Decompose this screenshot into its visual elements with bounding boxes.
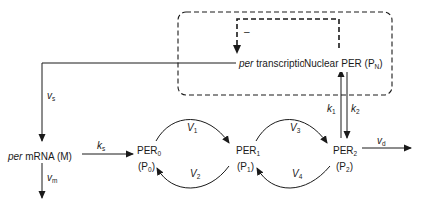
per0-label: PER0: [137, 145, 161, 159]
nuclear-per-label: Nuclear PER (PN): [304, 58, 383, 72]
transcription-gene: per: [239, 58, 253, 69]
k2-sub: 2: [356, 108, 360, 115]
v4-sym: V: [292, 168, 299, 179]
per1-sub: 1: [257, 150, 261, 157]
per0-name: PER: [137, 145, 158, 156]
transcription-text: transcription: [253, 58, 310, 69]
vs-label: vs: [47, 90, 55, 104]
mrna-label: per mRNA (M): [8, 151, 72, 162]
per0-sub: 0: [158, 150, 162, 157]
per2-alias-suffix: ): [350, 161, 353, 172]
transcription-label: per transcription: [238, 58, 311, 69]
nucleus-boundary: [178, 12, 392, 95]
v4-label: V4: [292, 168, 302, 182]
v3-label: V3: [290, 122, 300, 136]
ks-label: ks: [97, 140, 105, 154]
v1-sym: V: [187, 122, 194, 133]
v2-label: V2: [190, 168, 200, 182]
per1-alias-text: (P: [237, 161, 247, 172]
per2-label: PER2: [333, 145, 357, 159]
vd-label: vd: [377, 135, 386, 149]
per2-alias: (P2): [336, 161, 353, 175]
vd-sub: d: [382, 140, 386, 147]
k1-label: k1: [327, 103, 336, 117]
transcription-line: [42, 63, 236, 141]
mrna-text: mRNA (M): [22, 151, 71, 162]
feedback-arrowhead: [233, 45, 241, 54]
v1-sub: 1: [194, 127, 198, 134]
ks-sub: s: [102, 145, 105, 152]
v2-sub: 2: [197, 173, 201, 180]
per0-alias-text: (P: [138, 161, 148, 172]
nuclear-per-suffix: ): [379, 58, 382, 69]
k2-label: k2: [351, 103, 360, 117]
vm-label: vm: [47, 172, 57, 186]
nuclear-per-text: Nuclear PER (P: [304, 58, 375, 69]
v3-sym: V: [290, 122, 297, 133]
vm-sub: m: [52, 177, 57, 184]
v4-sub: 4: [299, 173, 303, 180]
per1-alias-suffix: ): [251, 161, 254, 172]
per0-alias: (P0): [138, 161, 155, 175]
per1-label: PER1: [236, 145, 260, 159]
v3-sub: 3: [297, 127, 301, 134]
per2-sub: 2: [354, 150, 358, 157]
feedback-path: [237, 19, 339, 48]
per0-alias-suffix: ): [152, 161, 155, 172]
per2-alias-text: (P: [336, 161, 346, 172]
vs-sub: s: [52, 95, 55, 102]
v1-label: V1: [187, 122, 197, 136]
per2-name: PER: [333, 145, 354, 156]
per1-alias: (P1): [237, 161, 254, 175]
per1-name: PER: [236, 145, 257, 156]
k1-sub: 1: [332, 108, 336, 115]
feedback-sign: –: [244, 26, 250, 37]
mrna-gene: per: [8, 151, 22, 162]
v2-sym: V: [190, 168, 197, 179]
